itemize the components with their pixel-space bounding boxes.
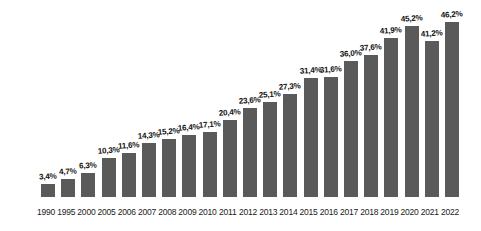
bar [162,139,176,197]
bar [364,55,378,197]
x-axis-labels: 1990199520002005200620072008200920102011… [0,197,481,231]
bar [283,94,297,197]
bar-group: 6,3% [78,0,98,197]
bar [405,26,419,197]
bar [344,61,358,197]
bar-group: 31,6% [321,0,341,197]
bar-group: 16,4% [179,0,199,197]
bar [122,153,136,197]
bar-chart: 3,4%4,7%6,3%10,3%11,6%14,3%15,2%16,4%17,… [0,0,481,231]
bar [102,158,116,197]
bar-group: 10,3% [99,0,119,197]
year-label: 2022 [438,207,462,217]
bar-group: 31,4% [301,0,321,197]
bar [384,38,398,197]
bar-group: 36,0% [341,0,361,197]
bar-group: 11,6% [119,0,139,197]
bar [324,77,338,197]
bar [61,179,75,197]
bar-group: 41,2% [422,0,442,197]
bar [304,78,318,197]
bar [425,41,439,197]
bar-group: 25,1% [260,0,280,197]
bar-group: 15,2% [159,0,179,197]
bar [142,143,156,197]
bar [182,135,196,197]
bar [223,120,237,197]
bar [41,184,55,197]
bar-group: 41,9% [381,0,401,197]
bar [263,102,277,197]
bar [445,22,459,197]
bar [203,132,217,197]
bar-group: 46,2% [442,0,462,197]
bar-group: 27,3% [280,0,300,197]
bar-group: 14,3% [139,0,159,197]
bar-group: 17,1% [200,0,220,197]
bar [81,173,95,197]
bar-value-label: 46,2% [435,9,468,20]
bar [243,108,257,197]
plot-area: 3,4%4,7%6,3%10,3%11,6%14,3%15,2%16,4%17,… [0,0,481,197]
